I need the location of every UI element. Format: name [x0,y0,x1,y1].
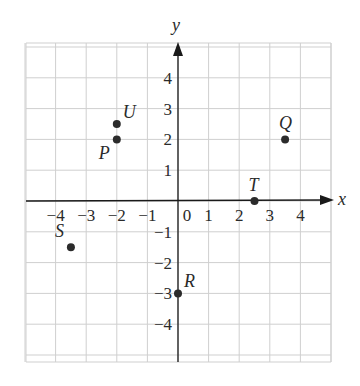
point-label: P [98,143,110,163]
point-label: U [123,102,137,122]
x-tick-label: 1 [204,206,213,225]
y-tick-label: 2 [164,130,173,149]
y-tick-label: −3 [154,284,172,303]
plotted-points: PUQTSR [55,102,292,297]
point-S: S [55,221,75,251]
point-dot [67,243,75,251]
point-dot [174,289,182,297]
y-tick-label: −2 [154,254,172,273]
point-label: R [183,271,195,291]
x-axis-arrow-icon [320,195,334,205]
y-axis-label: y [170,15,180,35]
x-tick-label: −2 [108,206,126,225]
x-tick-label: 4 [296,206,305,225]
axes: x y [26,15,346,362]
y-tick-label: 4 [164,69,173,88]
x-tick-label: 0 [183,206,192,225]
point-dot [113,135,121,143]
point-label: T [249,175,261,195]
y-tick-label: −4 [154,315,173,334]
x-tick-label: −3 [77,206,95,225]
point-label: Q [279,113,292,133]
point-dot [281,135,289,143]
y-tick-label: 3 [164,100,173,119]
y-tick-label: −1 [154,223,172,242]
y-tick-label: 1 [164,161,173,180]
x-axis-label: x [337,189,346,209]
x-tick-label: 3 [266,206,275,225]
point-label: S [55,221,64,241]
coordinate-plane: x y −4−3−2−101234 4321−1−2−3−4 PUQTSR [0,0,360,386]
point-dot [251,197,259,205]
x-tick-label: 2 [235,206,244,225]
y-axis-arrow-icon [173,42,183,56]
point-dot [113,120,121,128]
x-tick-labels: −4−3−2−101234 [47,206,306,225]
